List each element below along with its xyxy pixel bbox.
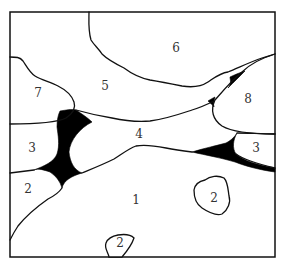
boundary-grain-3-left bbox=[10, 170, 34, 173]
pore-right-upper bbox=[228, 71, 245, 88]
label-region-3-left: 3 bbox=[28, 141, 36, 155]
label-region-2-bottom: 2 bbox=[116, 236, 124, 250]
label-region-1: 1 bbox=[132, 193, 140, 207]
label-region-7: 7 bbox=[34, 86, 42, 100]
boundary-grain-2-left bbox=[10, 188, 62, 240]
label-region-8: 8 bbox=[244, 92, 252, 106]
pore-right-lower bbox=[192, 133, 275, 172]
label-region-3-right: 3 bbox=[252, 141, 260, 155]
label-region-5: 5 bbox=[101, 79, 109, 93]
label-region-2-left: 2 bbox=[24, 182, 32, 196]
boundary-4-5 bbox=[76, 101, 214, 121]
region-diagram: 1 2 2 2 3 3 4 5 6 7 8 bbox=[0, 0, 283, 266]
boundary-5-6 bbox=[89, 12, 275, 87]
label-region-2-island: 2 bbox=[210, 191, 218, 205]
label-region-4: 4 bbox=[135, 127, 143, 141]
label-region-6: 6 bbox=[172, 41, 180, 55]
boundary-1-4 bbox=[82, 145, 192, 173]
pore-left bbox=[34, 110, 92, 188]
